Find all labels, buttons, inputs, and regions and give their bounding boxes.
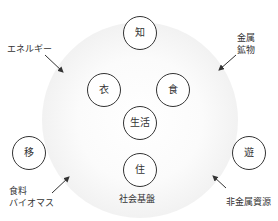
node-knowledge-label: 知 (135, 28, 145, 38)
food-label-line1: 食料 (9, 185, 54, 197)
node-mobility-label: 移 (24, 148, 34, 158)
food-label-line2: バイオマス (9, 197, 54, 209)
node-leisure: 遊 (232, 136, 266, 170)
metal-label-line2: 鉱物 (237, 44, 255, 56)
node-housing: 住 (123, 153, 157, 187)
social-infrastructure-label: 社会基盤 (119, 193, 155, 205)
node-life-label: 生活 (130, 118, 150, 128)
nonmetal-resources-label: 非金属資源 (226, 196, 271, 208)
food-biomass-label: 食料 バイオマス (9, 185, 54, 209)
metal-label-line1: 金属 (237, 32, 255, 44)
node-leisure-label: 遊 (244, 148, 254, 158)
node-mobility: 移 (12, 136, 46, 170)
node-life-center: 生活 (123, 106, 157, 140)
metal-mineral-label: 金属 鉱物 (237, 32, 255, 56)
node-housing-label: 住 (135, 165, 145, 175)
node-food-label: 食 (168, 85, 178, 95)
node-clothing: 衣 (87, 73, 121, 107)
node-food: 食 (156, 73, 190, 107)
node-knowledge: 知 (123, 16, 157, 50)
energy-label: エネルギー (7, 43, 52, 55)
node-clothing-label: 衣 (99, 85, 109, 95)
